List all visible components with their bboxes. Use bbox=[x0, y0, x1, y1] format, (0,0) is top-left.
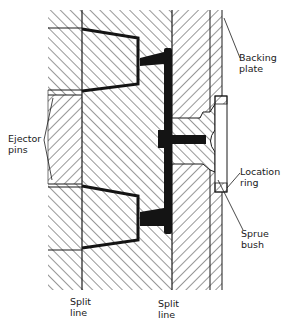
ejector-pin-block bbox=[48, 90, 82, 184]
label-location-ring-line2: ring bbox=[240, 177, 259, 188]
label-split-line-right-line2: line bbox=[158, 309, 175, 320]
label-location-ring-line1: Location bbox=[240, 166, 280, 177]
mould-cross-section-diagram bbox=[0, 0, 287, 328]
label-backing-plate-line1: Backing bbox=[239, 52, 277, 63]
label-sprue-bush-line2: bush bbox=[241, 239, 264, 250]
label-split-line-left: Splitline bbox=[70, 296, 91, 318]
label-split-line-right-line1: Split bbox=[158, 298, 179, 309]
label-ejector-pins-line2: pins bbox=[8, 144, 28, 155]
label-backing-plate-line2: plate bbox=[239, 63, 263, 74]
location-ring bbox=[215, 96, 227, 192]
label-sprue-bush: Spruebush bbox=[241, 228, 269, 250]
label-backing-plate: Backingplate bbox=[239, 52, 277, 74]
label-sprue-bush-line1: Sprue bbox=[241, 228, 269, 239]
label-split-line-left-line2: line bbox=[70, 307, 87, 318]
label-split-line-right: Splitline bbox=[158, 298, 179, 320]
label-split-line-left-line1: Split bbox=[70, 296, 91, 307]
label-location-ring: Locationring bbox=[240, 166, 280, 188]
label-ejector-pins-line1: Ejector bbox=[8, 133, 41, 144]
label-ejector-pins: Ejectorpins bbox=[8, 133, 41, 155]
